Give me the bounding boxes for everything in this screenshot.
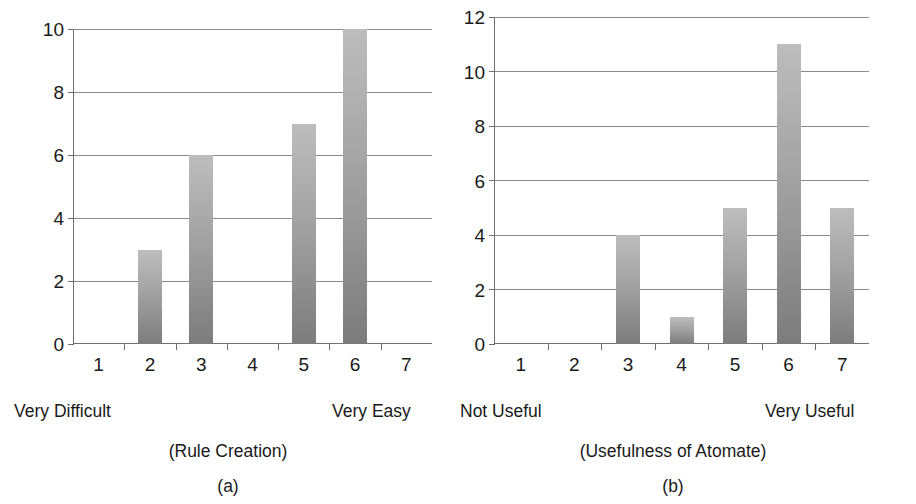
x-axis-line-a [73, 343, 432, 344]
scale-right-label-b: Very Useful [765, 403, 854, 421]
panel-index-a: (a) [217, 478, 238, 496]
x-tick-label-b-5: 5 [730, 355, 741, 374]
gridline-b-10 [494, 71, 869, 72]
chart-subtitle-a: (Rule Creation) [169, 443, 288, 461]
y-tick-b-6 [489, 180, 495, 181]
panel-index-b: (b) [662, 478, 683, 496]
bar-b-3 [616, 235, 640, 344]
y-tick-label-b-4: 4 [474, 226, 485, 245]
y-tick-b-4 [489, 235, 495, 236]
x-tick-a-4 [278, 344, 279, 350]
y-tick-label-b-2: 2 [474, 280, 485, 299]
y-tick-label-a-10: 10 [43, 20, 64, 39]
y-tick-label-a-6: 6 [53, 146, 64, 165]
scale-left-label-b: Not Useful [460, 403, 542, 421]
x-tick-b-1 [548, 344, 549, 350]
gridline-b-8 [494, 126, 869, 127]
gridline-a-6 [73, 155, 432, 156]
x-tick-label-b-7: 7 [837, 355, 848, 374]
x-tick-b-6 [815, 344, 816, 350]
chart-subtitle-b: (Usefulness of Atomate) [580, 443, 767, 461]
y-tick-label-b-12: 12 [464, 8, 485, 27]
bar-a-6 [343, 29, 367, 344]
y-tick-b-12 [489, 17, 495, 18]
x-tick-a-1 [124, 344, 125, 350]
x-tick-b-3 [655, 344, 656, 350]
x-tick-b-4 [708, 344, 709, 350]
y-tick-label-b-6: 6 [474, 171, 485, 190]
y-tick-a-0 [68, 344, 74, 345]
x-tick-label-a-1: 1 [93, 355, 104, 374]
x-tick-label-a-6: 6 [350, 355, 361, 374]
x-tick-label-b-2: 2 [569, 355, 580, 374]
y-tick-a-6 [68, 155, 74, 156]
y-tick-label-b-10: 10 [464, 62, 485, 81]
x-tick-label-b-6: 6 [783, 355, 794, 374]
y-tick-b-0 [489, 344, 495, 345]
chart-panel-a: 02468101234567 Very Difficult Very Easy … [0, 0, 458, 504]
y-tick-a-2 [68, 281, 74, 282]
x-tick-a-2 [176, 344, 177, 350]
y-tick-label-a-4: 4 [53, 209, 64, 228]
y-tick-b-2 [489, 289, 495, 290]
x-tick-a-3 [227, 344, 228, 350]
x-tick-label-b-1: 1 [515, 355, 526, 374]
chart-panel-b: 0246810121234567 Not Useful Very Useful … [458, 0, 916, 504]
scale-left-label-a: Very Difficult [14, 403, 111, 421]
gridline-a-4 [73, 218, 432, 219]
gridline-a-8 [73, 92, 432, 93]
bar-b-5 [723, 208, 747, 344]
y-tick-label-a-0: 0 [53, 335, 64, 354]
x-tick-a-6 [381, 344, 382, 350]
bar-a-5 [292, 124, 316, 345]
gridline-a-10 [73, 29, 432, 30]
y-tick-a-8 [68, 92, 74, 93]
bar-b-4 [670, 317, 694, 344]
y-tick-label-a-8: 8 [53, 83, 64, 102]
x-tick-b-2 [601, 344, 602, 350]
x-tick-label-a-3: 3 [196, 355, 207, 374]
x-tick-label-a-5: 5 [298, 355, 309, 374]
x-tick-label-b-3: 3 [623, 355, 634, 374]
gridline-b-4 [494, 235, 869, 236]
x-tick-b-5 [762, 344, 763, 350]
y-tick-b-10 [489, 71, 495, 72]
plot-area-a: 02468101234567 [73, 29, 432, 344]
figure-two-bar-charts: 02468101234567 Very Difficult Very Easy … [0, 0, 916, 504]
gridline-a-2 [73, 281, 432, 282]
y-tick-a-10 [68, 29, 74, 30]
y-tick-label-a-2: 2 [53, 272, 64, 291]
bar-a-2 [138, 250, 162, 345]
y-tick-label-b-0: 0 [474, 335, 485, 354]
y-tick-b-8 [489, 126, 495, 127]
bar-b-7 [830, 208, 854, 344]
y-axis-line-a [73, 29, 74, 344]
x-tick-label-a-7: 7 [401, 355, 412, 374]
x-tick-label-a-2: 2 [145, 355, 156, 374]
x-tick-label-a-4: 4 [247, 355, 258, 374]
bar-a-3 [189, 155, 213, 344]
plot-area-b: 0246810121234567 [494, 17, 869, 344]
gridline-b-2 [494, 289, 869, 290]
y-tick-a-4 [68, 218, 74, 219]
x-tick-a-5 [329, 344, 330, 350]
y-tick-label-b-8: 8 [474, 117, 485, 136]
gridline-b-6 [494, 180, 869, 181]
gridline-b-12 [494, 17, 869, 18]
bar-b-6 [777, 44, 801, 344]
scale-right-label-a: Very Easy [332, 403, 411, 421]
x-tick-label-b-4: 4 [676, 355, 687, 374]
